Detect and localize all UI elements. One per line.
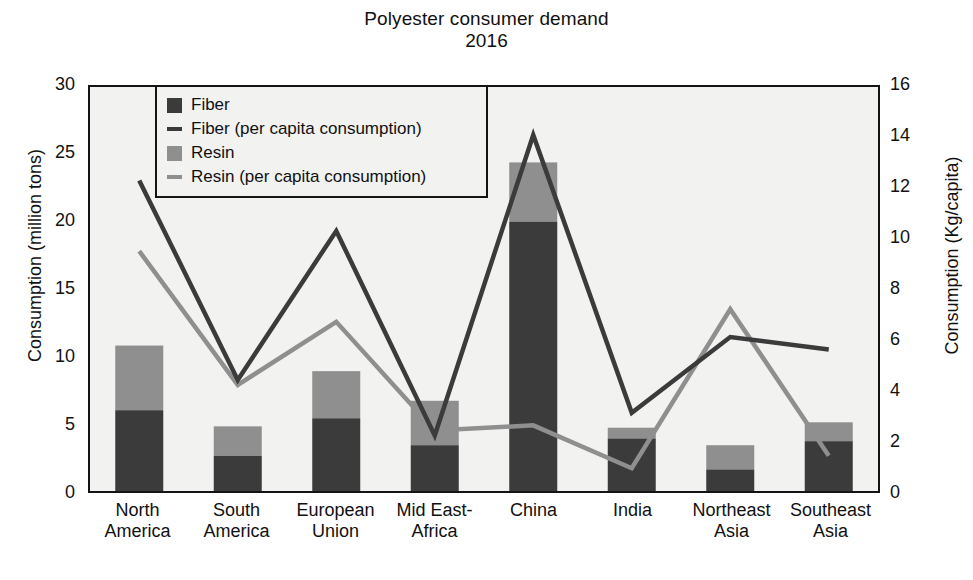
x-tick-label-line: India xyxy=(583,500,682,521)
y-tick-label-left: 20 xyxy=(15,210,75,231)
bar-segment-fiber xyxy=(312,418,360,491)
x-tick-label: SoutheastAsia xyxy=(781,500,880,570)
x-tick-label-line: European xyxy=(286,500,385,521)
bar-segment-fiber xyxy=(214,456,262,491)
y-tick-label-right: 4 xyxy=(890,380,950,401)
x-tick-label-line: Africa xyxy=(385,521,484,542)
x-tick-label: China xyxy=(484,500,583,570)
y-axis-label-left: Consumption (million tons) xyxy=(25,46,46,466)
bar-segment-fiber xyxy=(805,441,853,491)
x-tick-label: NorthAmerica xyxy=(88,500,187,570)
x-tick-label-line: America xyxy=(187,521,286,542)
y-tick-label-left: 5 xyxy=(15,414,75,435)
x-tick-label: EuropeanUnion xyxy=(286,500,385,570)
bar-segment-resin xyxy=(115,346,163,411)
x-tick-label-line: America xyxy=(88,521,187,542)
x-tick-label-line: North xyxy=(88,500,187,521)
x-tick-label-line: South xyxy=(187,500,286,521)
x-tick-label: India xyxy=(583,500,682,570)
legend-label: Resin (per capita consumption) xyxy=(191,167,426,187)
bar-segment-fiber xyxy=(115,410,163,491)
legend-label: Fiber xyxy=(191,95,230,115)
chart-title: Polyester consumer demand xyxy=(0,8,973,30)
legend-label: Fiber (per capita consumption) xyxy=(191,119,422,139)
fiber-line-swatch-icon xyxy=(167,127,182,131)
x-tick-label-line: Asia xyxy=(682,521,781,542)
x-tick-label-line: Northeast xyxy=(682,500,781,521)
y-tick-label-right: 6 xyxy=(890,329,950,350)
x-tick-label-line: China xyxy=(484,500,583,521)
x-tick-label: SouthAmerica xyxy=(187,500,286,570)
legend-item-fiber: Fiber xyxy=(167,93,478,117)
fiber-swatch-icon xyxy=(167,98,182,113)
y-tick-label-left: 25 xyxy=(15,142,75,163)
resin-swatch-icon xyxy=(167,146,182,161)
x-axis-labels: NorthAmericaSouthAmericaEuropeanUnionMid… xyxy=(88,500,880,570)
y-tick-label-right: 14 xyxy=(890,125,950,146)
y-tick-label-right: 10 xyxy=(890,227,950,248)
bar-segment-resin xyxy=(312,371,360,418)
x-tick-label: NortheastAsia xyxy=(682,500,781,570)
legend-item-resin: Resin xyxy=(167,141,478,165)
chart-title-block: Polyester consumer demand 2016 xyxy=(0,8,973,53)
y-tick-label-right: 2 xyxy=(890,431,950,452)
y-tick-label-left: 15 xyxy=(15,278,75,299)
y-tick-label-right: 8 xyxy=(890,278,950,299)
y-tick-label-right: 12 xyxy=(890,176,950,197)
bar-segment-resin xyxy=(706,445,754,469)
legend-item-fiber-per-capita: Fiber (per capita consumption) xyxy=(167,117,478,141)
x-tick-label-line: Union xyxy=(286,521,385,542)
y-axis-label-right: Consumption (Kg/capita) xyxy=(942,46,963,466)
y-tick-label-left: 0 xyxy=(15,482,75,503)
y-tick-label-right: 0 xyxy=(890,482,950,503)
x-tick-label-line: Mid East- xyxy=(385,500,484,521)
legend-item-resin-per-capita: Resin (per capita consumption) xyxy=(167,165,478,189)
chart-legend: Fiber Fiber (per capita consumption) Res… xyxy=(155,85,488,198)
chart-figure: Polyester consumer demand 2016 Consumpti… xyxy=(0,0,973,580)
y-tick-label-left: 30 xyxy=(15,74,75,95)
y-tick-label-right: 16 xyxy=(890,74,950,95)
x-tick-label: Mid East-Africa xyxy=(385,500,484,570)
x-tick-label-line: Asia xyxy=(781,521,880,542)
chart-subtitle: 2016 xyxy=(0,30,973,52)
bar-segment-fiber xyxy=(509,222,557,491)
x-tick-label-line: Southeast xyxy=(781,500,880,521)
bar-segment-fiber xyxy=(411,445,459,491)
resin-line-swatch-icon xyxy=(167,175,182,179)
y-tick-label-left: 10 xyxy=(15,346,75,367)
bar-segment-fiber xyxy=(706,469,754,491)
legend-label: Resin xyxy=(191,143,234,163)
bar-segment-resin xyxy=(608,428,656,439)
bar-segment-resin xyxy=(214,426,262,456)
